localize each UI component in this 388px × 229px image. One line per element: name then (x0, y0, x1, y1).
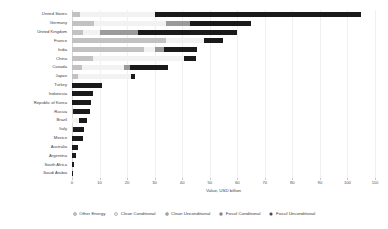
x-axis-tick-label: 70 (262, 181, 267, 185)
x-axis-tick-label: 90 (318, 181, 323, 185)
bar-segment (164, 47, 197, 52)
stacked-bar (72, 38, 223, 43)
bar-row (72, 10, 375, 19)
bar-segment (72, 47, 144, 52)
bar-segment (204, 38, 223, 43)
bar-segment (130, 65, 169, 70)
chart-legend: Other EnergyClean ConditionalClean Uncon… (0, 208, 388, 220)
bar-row (72, 19, 375, 28)
plot-area (72, 10, 375, 178)
bar-segment (190, 21, 251, 26)
bar-segment (78, 74, 132, 79)
x-axis-tick-label: 100 (344, 181, 351, 185)
legend-swatch-icon (269, 212, 273, 216)
bar-row (72, 134, 375, 143)
legend-item[interactable]: Fossil Unconditional (269, 212, 315, 216)
legend-label: Clean Unconditional (171, 212, 210, 216)
legend-item[interactable]: Other Energy (73, 212, 106, 216)
gridline (375, 10, 376, 178)
y-axis-label: United States (42, 12, 67, 16)
x-axis-tick-label: 40 (180, 181, 185, 185)
y-axis-label: Germany (50, 21, 67, 25)
bar-segment (138, 30, 237, 35)
legend-item[interactable]: Clean Unconditional (165, 212, 211, 216)
bar-row (72, 37, 375, 46)
y-axis-label: United Kingdom (37, 30, 67, 34)
bar-segment (72, 171, 73, 176)
bar-segment (82, 65, 125, 70)
stacked-bar (72, 30, 237, 35)
y-axis-label: South Africa (44, 163, 67, 167)
y-axis-label: Japan (56, 74, 67, 78)
stacked-bar (72, 100, 91, 105)
stacked-bar (72, 56, 196, 61)
bar-row (72, 160, 375, 169)
legend-item[interactable]: Clean Conditional (114, 212, 155, 216)
bar-segment (72, 56, 93, 61)
bar-segment (166, 21, 191, 26)
legend-swatch-icon (114, 212, 118, 216)
y-axis-label: Australia (51, 145, 67, 149)
bar-segment (144, 47, 155, 52)
bar-segment (72, 118, 79, 123)
bar-segment (80, 12, 154, 17)
bar-segment (73, 109, 90, 114)
x-axis-tick-label: 20 (125, 181, 130, 185)
stacked-bar (72, 118, 87, 123)
bar-segment (72, 21, 94, 26)
bar-rows (72, 10, 375, 178)
bar-segment (72, 30, 83, 35)
stacked-bar (72, 136, 83, 141)
bar-segment (73, 127, 84, 132)
bar-row (72, 107, 375, 116)
bar-segment (184, 56, 196, 61)
stacked-bar (72, 91, 93, 96)
x-axis-tick-label: 50 (207, 181, 212, 185)
bar-segment (72, 83, 102, 88)
bar-segment (131, 74, 135, 79)
y-axis-label: France (54, 39, 67, 43)
stacked-bar (72, 171, 73, 176)
stacked-bar (72, 83, 102, 88)
bar-row (72, 81, 375, 90)
y-axis-label: Russia (54, 110, 67, 114)
legend-label: Clean Conditional (121, 212, 156, 216)
y-axis-label: China (56, 57, 67, 61)
bar-row (72, 98, 375, 107)
bar-segment (72, 153, 76, 158)
stacked-bar (72, 127, 84, 132)
stacked-bar-chart: United StatesGermanyUnited KingdomFrance… (0, 0, 388, 229)
y-axis-label: India (58, 48, 67, 52)
legend-swatch-icon (73, 212, 77, 216)
bar-row (72, 116, 375, 125)
legend-label: Fossil Conditional (226, 212, 261, 216)
x-axis-tick-label: 80 (290, 181, 295, 185)
bar-row (72, 125, 375, 134)
y-axis-label: Canada (52, 65, 67, 69)
y-axis-label: Mexico (54, 136, 67, 140)
x-axis-tick-label: 10 (97, 181, 102, 185)
bar-segment (83, 30, 100, 35)
bar-segment (94, 21, 166, 26)
bar-row (72, 45, 375, 54)
y-axis-label: Argentina (49, 154, 67, 158)
bar-row (72, 54, 375, 63)
legend-item[interactable]: Fossil Conditional (219, 212, 260, 216)
bar-segment (72, 100, 91, 105)
stacked-bar (72, 74, 135, 79)
stacked-bar (72, 12, 361, 17)
x-axis-tick-label: 60 (235, 181, 240, 185)
bar-row (72, 151, 375, 160)
stacked-bar (72, 47, 197, 52)
x-axis-tick-label: 110 (372, 181, 379, 185)
bar-segment (72, 12, 80, 17)
stacked-bar (72, 145, 78, 150)
stacked-bar (72, 109, 90, 114)
bar-row (72, 143, 375, 152)
stacked-bar (72, 21, 251, 26)
legend-label: Fossil Unconditional (276, 212, 315, 216)
y-axis-label: Brazil (57, 118, 67, 122)
x-axis-tick-label: 0 (71, 181, 73, 185)
bar-segment (72, 162, 74, 167)
bar-row (72, 28, 375, 37)
